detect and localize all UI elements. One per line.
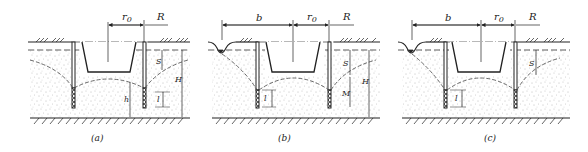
label-l: l [157,95,160,104]
caption-b: (b) [278,133,291,143]
well-screen [143,88,146,108]
label-R: R [528,11,537,22]
label-h: h [124,95,129,104]
caption-c: (c) [484,133,497,143]
well-screen [72,88,75,108]
panel-c: b r0 R l S (c) [398,11,570,143]
label-r0: r0 [122,11,132,24]
label-l: l [455,94,458,103]
label-r0: r0 [307,11,317,24]
diagram-canvas: r0 R S l h H (a) [0,0,588,152]
label-l: l [264,94,267,103]
label-S: S [343,59,349,68]
well-pipe [72,42,75,88]
label-R: R [342,11,351,22]
label-H: H [361,77,370,86]
label-r0: r0 [494,11,504,24]
well-pipe [143,42,146,88]
label-S: S [156,57,162,66]
label-S: S [529,59,535,68]
label-R: R [156,11,165,22]
label-b: b [256,12,262,23]
label-M: M [341,89,351,98]
label-b: b [445,12,451,23]
panel-b: b r0 R l S M H (b) [208,11,380,143]
caption-a: (a) [91,133,104,143]
panel-a: r0 R S l h H (a) [28,11,190,143]
label-H: H [174,75,183,84]
